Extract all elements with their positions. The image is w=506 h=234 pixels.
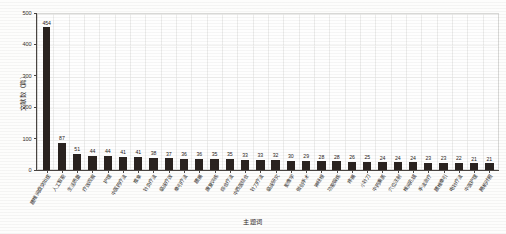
bar[interactable] [256, 160, 264, 170]
bar-slot: 35 [207, 13, 222, 170]
bar-slot: 32 [268, 13, 283, 170]
bar[interactable] [149, 158, 157, 170]
bar[interactable] [332, 161, 340, 170]
bar[interactable] [58, 143, 66, 170]
x-axis-tick-label: 生活质量 [67, 174, 81, 193]
x-axis-tick-mark [123, 170, 124, 173]
bar-value-label: 36 [181, 152, 187, 157]
x-axis-tick-mark [367, 170, 368, 173]
bar[interactable] [43, 27, 49, 170]
bar-value-label: 30 [288, 154, 294, 159]
x-axis-tick-mark [337, 170, 338, 173]
bar[interactable] [165, 158, 173, 170]
x-axis-tick-mark [92, 170, 93, 173]
bar-slot: 24 [375, 13, 390, 170]
x-axis-slot: 微创手术 [299, 170, 314, 216]
bar-value-label: 41 [120, 150, 126, 155]
bar[interactable] [210, 159, 218, 170]
x-axis-tick-mark [398, 170, 399, 173]
x-axis-slot: 牵引疗法 [176, 170, 191, 216]
bar[interactable] [455, 163, 463, 170]
bar-value-label: 35 [212, 152, 218, 157]
x-axis-tick-label: 电针疗法 [449, 174, 463, 193]
bar-value-label: 24 [410, 156, 416, 161]
bar-value-label: 28 [319, 155, 325, 160]
bar-value-label: 32 [273, 153, 279, 158]
bar[interactable] [363, 162, 371, 170]
bar[interactable] [134, 157, 142, 170]
bar[interactable] [302, 161, 310, 170]
x-axis-tick-label: 综合疗法 [220, 174, 234, 193]
x-axis-tick-label: 人工智能 [52, 174, 66, 193]
bar[interactable] [348, 162, 356, 170]
bar-slot: 21 [482, 13, 497, 170]
bar-value-label: 21 [487, 157, 493, 162]
bar-value-label: 29 [303, 154, 309, 159]
x-axis-slot: 功能锻炼 [329, 170, 344, 216]
bar[interactable] [180, 159, 188, 170]
y-axis-tick-label: 100 [22, 135, 33, 141]
x-axis-slot: 临床疗效 [161, 170, 176, 216]
bar-value-label: 37 [166, 152, 172, 157]
bar-value-label: 41 [135, 150, 141, 155]
x-axis-title: 主题词 [0, 217, 506, 226]
bar-value-label: 36 [196, 152, 202, 157]
bar-slot: 22 [451, 13, 466, 170]
x-axis-tick-label: 临床研究 [265, 174, 279, 193]
bar[interactable] [271, 160, 279, 170]
bar-slot: 36 [176, 13, 191, 170]
bar-value-label: 35 [227, 152, 233, 157]
x-axis-tick-mark [77, 170, 78, 173]
bar-value-label: 33 [242, 153, 248, 158]
x-axis-tick-label: 随机对照 [479, 174, 493, 193]
bar-value-label: 23 [441, 156, 447, 161]
x-axis-slot: 疗效观察 [85, 170, 100, 216]
bar-value-label: 24 [380, 156, 386, 161]
x-axis-tick-mark [245, 170, 246, 173]
x-axis-slot: 神经根 [314, 170, 329, 216]
bar-slot: 44 [100, 13, 115, 170]
bar-slot: 25 [360, 13, 375, 170]
x-axis-tick-mark [306, 170, 307, 173]
bar[interactable] [317, 161, 325, 170]
x-axis-slot: 电针疗法 [451, 170, 466, 216]
bar-chart-figure: 文献数（篇） 0100200300400500 4548751444441413… [0, 0, 506, 234]
x-axis-slot: 随机对照 [482, 170, 497, 216]
bar[interactable] [104, 156, 112, 170]
x-axis-tick-label: 推拿 [133, 174, 142, 185]
bar[interactable] [195, 159, 203, 170]
bar-slot: 36 [192, 13, 207, 170]
bar[interactable] [409, 162, 417, 170]
bar[interactable] [485, 163, 493, 170]
bar[interactable] [88, 156, 96, 170]
bar[interactable] [378, 162, 386, 170]
x-axis-tick-mark [382, 170, 383, 173]
x-axis-tick-mark [321, 170, 322, 173]
bar[interactable] [119, 157, 127, 170]
x-axis-tick-label: 手法治疗 [418, 174, 432, 193]
bar[interactable] [394, 162, 402, 170]
x-axis-slot: 生活质量 [70, 170, 85, 216]
x-axis-slot: 小针刀 [360, 170, 375, 216]
bar[interactable] [439, 163, 447, 170]
bar[interactable] [287, 161, 295, 170]
x-axis-tick-label: 微创手术 [296, 174, 310, 193]
bar-slot: 51 [70, 13, 85, 170]
bar-slot: 29 [299, 13, 314, 170]
y-axis-tick-label: 400 [22, 41, 33, 47]
x-axis-slot: 影像学 [283, 170, 298, 216]
bar[interactable] [424, 163, 432, 170]
bar[interactable] [73, 154, 81, 170]
x-axis-tick-label: 针刀疗法 [250, 174, 264, 193]
bar-value-label: 44 [105, 149, 111, 154]
bar-value-label: 44 [90, 149, 96, 154]
x-axis-tick-mark [352, 170, 353, 173]
x-axis-slot: 中医护理 [466, 170, 481, 216]
bar[interactable] [226, 159, 234, 170]
bar-slot: 30 [283, 13, 298, 170]
bar[interactable] [241, 160, 249, 170]
bar[interactable] [470, 163, 478, 170]
x-axis-tick-label: 针灸疗法 [143, 174, 157, 193]
x-axis-tick-label: 小针刀 [360, 174, 372, 189]
bar-slot: 26 [344, 13, 359, 170]
